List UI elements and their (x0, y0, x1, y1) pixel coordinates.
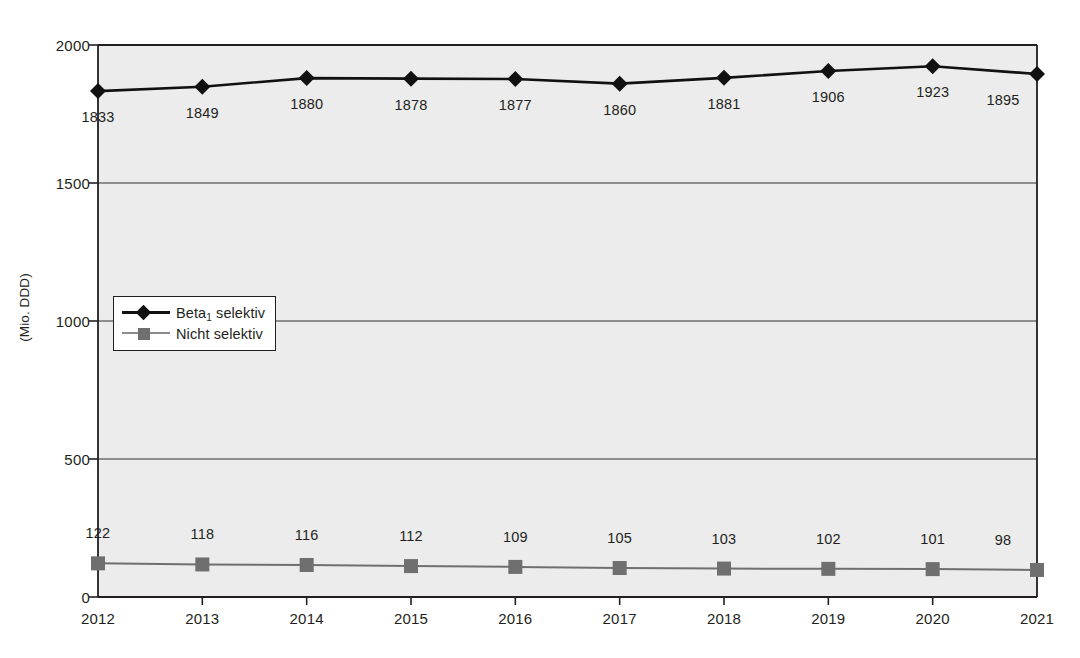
legend-label-series-1-base: Beta (176, 305, 206, 321)
legend-label-series-1-rest: selektiv (212, 305, 265, 321)
data-point-marker[interactable] (1030, 563, 1044, 577)
series-2-data-label: 118 (162, 526, 242, 542)
data-point-marker[interactable] (300, 558, 314, 572)
x-tick-label-2020: 2020 (893, 610, 973, 627)
x-tick-label-2019: 2019 (788, 610, 868, 627)
diamond-marker-icon (122, 303, 170, 323)
legend-label-series-2: Nicht selektiv (170, 326, 263, 342)
data-point-marker[interactable] (508, 560, 522, 574)
data-point-marker[interactable] (91, 556, 105, 570)
legend-label-series-1-sub: 1 (206, 312, 212, 323)
x-tick-label-2013: 2013 (162, 610, 242, 627)
legend-label-series-1: Beta1 selektiv (170, 305, 265, 321)
series-2-data-label: 103 (684, 531, 764, 547)
series-1-data-label: 1849 (162, 105, 242, 121)
legend: Beta1 selektiv Nicht selektiv (113, 296, 276, 351)
series-1-data-label: 1881 (684, 96, 764, 112)
data-point-marker[interactable] (613, 561, 627, 575)
series-1-data-label: 1923 (893, 84, 973, 100)
data-point-marker[interactable] (821, 562, 835, 576)
x-tick-label-2015: 2015 (371, 610, 451, 627)
legend-item-beta1-selektiv[interactable]: Beta1 selektiv (122, 302, 265, 323)
series-1-data-label: 1878 (371, 97, 451, 113)
series-2-data-label: 98 (963, 532, 1043, 548)
series-1-data-label: 1880 (267, 96, 347, 112)
series-1-data-label: 1833 (58, 109, 138, 125)
x-tick-label-2017: 2017 (580, 610, 660, 627)
series-1-data-label: 1877 (475, 97, 555, 113)
x-tick-label-2018: 2018 (684, 610, 764, 627)
data-point-marker[interactable] (926, 562, 940, 576)
legend-item-nicht-selektiv[interactable]: Nicht selektiv (122, 323, 265, 344)
line-chart: (Mio. DDD) 0 500 1000 1500 2000 20122013… (0, 0, 1080, 658)
series-2-data-label: 109 (475, 529, 555, 545)
series-2-data-label: 112 (371, 528, 451, 544)
x-tick-label-2014: 2014 (267, 610, 347, 627)
x-tick-label-2012: 2012 (58, 610, 138, 627)
series-1-data-label: 1860 (580, 102, 660, 118)
data-point-marker[interactable] (195, 557, 209, 571)
square-marker-icon (122, 324, 170, 344)
series-2-data-label: 101 (893, 531, 973, 547)
data-point-marker[interactable] (717, 562, 731, 576)
series-2-data-label: 102 (788, 531, 868, 547)
data-point-marker[interactable] (404, 559, 418, 573)
series-1-data-label: 1895 (963, 92, 1043, 108)
x-tick-label-2021: 2021 (997, 610, 1077, 627)
x-tick-label-2016: 2016 (475, 610, 555, 627)
series-2-data-label: 122 (58, 525, 138, 541)
series-2-data-label: 105 (580, 530, 660, 546)
series-2-data-label: 116 (267, 527, 347, 543)
series-1-data-label: 1906 (788, 89, 868, 105)
